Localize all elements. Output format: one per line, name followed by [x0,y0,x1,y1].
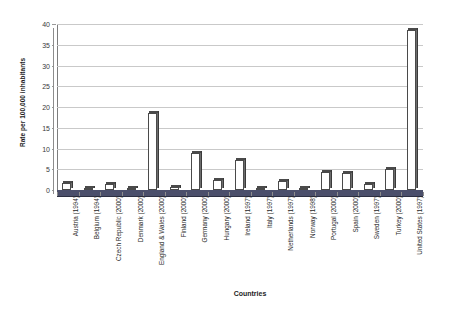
bar-chart: Rate per 100,000 inhabitants 05101520253… [0,0,464,324]
bar-face [407,30,416,190]
y-axis-tick-label: 15 [42,124,50,131]
bar-top-face [343,171,352,173]
y-axis-tick-labels: 0510152025303540 [31,14,53,194]
bar-top-face [386,167,395,169]
plot-area [57,24,423,190]
bar-top-face [171,185,180,187]
x-axis-tick-mark [358,192,359,196]
x-axis-tick-label: Portugal (2000) [329,196,339,240]
bar-side-face [330,170,332,188]
x-axis-title: Countries [0,290,464,297]
bar-side-face [394,167,396,188]
x-axis-tick-mark [337,192,338,196]
y-axis-title: Rate per 100,000 inhabitants [14,14,32,190]
y-axis-tick-label: 0 [46,187,50,194]
y-axis-tick-label: 10 [42,145,50,152]
x-axis-tick-label: Norway (1998) [308,196,318,238]
y-axis-tick-label: 30 [42,62,50,69]
x-axis-tick-label: Turkey (2000) [394,196,404,236]
bar-top-face [408,28,417,30]
x-axis-tick-mark [100,192,101,196]
bar-top-face [236,158,245,160]
x-axis-tick-label: Sweden (1997) [372,196,382,239]
bar-top-face [322,170,331,172]
y-axis-tick-mark [52,24,56,25]
bar-side-face [416,28,418,188]
y-axis-tick-label: 25 [42,83,50,90]
bar-top-face [106,182,115,184]
y-axis-tick-label: 40 [42,21,50,28]
x-axis-tick-mark [380,192,381,196]
x-axis-tick-mark [143,192,144,196]
bars-layer [57,24,423,190]
x-axis-tick-label: Denmark (2000) [136,196,146,242]
bar-top-face [128,186,137,188]
x-axis-tick-label: Czech Republic (2000) [114,196,124,261]
x-axis-tick-mark [229,192,230,196]
bar-top-face [214,178,223,180]
x-axis-tick-label: Austria (1994) [71,196,81,236]
x-axis-tick-mark [251,192,252,196]
x-axis-tick-mark [122,192,123,196]
bar-face [385,169,394,190]
bar-face [213,180,222,190]
bar-side-face [157,111,159,188]
bar-face [62,183,71,190]
x-axis-tick-labels: Austria (1994)Belgium (1994)Czech Republ… [57,196,423,280]
x-axis-tick-label: Ireland (1997) [243,196,253,236]
y-axis-tick-label: 5 [46,166,50,173]
x-axis-tick-label: Hungary (2000) [222,196,232,240]
bar-face [191,153,200,190]
y-axis-tick-label: 20 [42,104,50,111]
bar-side-face [244,158,246,188]
x-axis-tick-label: Spain (2000) [351,196,361,233]
y-axis-title-text: Rate per 100,000 inhabitants [20,57,27,146]
bar-face [278,181,287,190]
bar-top-face [279,179,288,181]
x-axis-tick-label: United States (1997) [415,196,425,255]
x-axis-tick-label: Germany (2000) [200,196,210,243]
x-axis-tick-mark [186,192,187,196]
bar-face [342,173,351,190]
x-axis-tick-label: Belgium (1994) [92,196,102,239]
x-axis-tick-label: Italy (1997) [265,196,275,228]
x-axis-tick-mark [165,192,166,196]
bar-top-face [63,181,72,183]
x-axis-tick-mark [79,192,80,196]
x-axis-tick-mark [294,192,295,196]
x-axis-tick-mark [423,192,424,196]
bar-face [321,172,330,190]
bar-top-face [149,111,158,113]
x-axis-tick-label: England & Wales (2000) [157,196,167,265]
bar-top-face [300,186,309,188]
x-axis-tick-mark [57,192,58,196]
bar-top-face [192,151,201,153]
x-axis-tick-label: Finland (2000) [179,196,189,237]
bar-top-face [85,186,94,188]
x-axis-tick-label: Netherlands (1997) [286,196,296,251]
x-axis-tick-mark [401,192,402,196]
x-axis-tick-mark [272,192,273,196]
y-axis-tick-label: 35 [42,41,50,48]
bar-side-face [351,171,353,188]
x-axis-tick-mark [315,192,316,196]
x-axis-tick-mark [208,192,209,196]
bar-top-face [365,182,374,184]
bar-face [148,113,157,190]
bar-top-face [257,186,266,188]
bar-face [235,160,244,190]
bar-side-face [200,151,202,188]
